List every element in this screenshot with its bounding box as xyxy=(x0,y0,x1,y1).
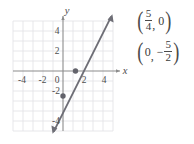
x-tick-label--2: -2 xyxy=(39,75,47,85)
x-tick-label-4: 4 xyxy=(102,75,107,85)
graph-canvas: -4 -2 0 2 4 4 2 -2 -4 x y xyxy=(0,0,134,144)
fraction-denominator: 2 xyxy=(164,51,172,64)
minus-sign: − xyxy=(154,46,164,58)
close-paren: ) xyxy=(173,39,179,65)
close-paren: ) xyxy=(165,8,171,34)
point-y-intercept xyxy=(60,93,65,98)
y-tick-label-4: 4 xyxy=(55,26,60,36)
x-axis-label: x xyxy=(122,65,128,76)
open-paren: ( xyxy=(137,39,143,65)
figure-page: -4 -2 0 2 4 4 2 -2 -4 x y (54,0) (0,−52) xyxy=(0,0,194,144)
y-tick-label--2: -2 xyxy=(52,86,60,96)
fraction-numerator: 5 xyxy=(164,39,172,51)
comma: , xyxy=(152,19,155,31)
open-paren: ( xyxy=(137,8,143,34)
coordinate-annotations: (54,0) (0,−52) xyxy=(136,8,194,70)
coordinate-plane-figure: -4 -2 0 2 4 4 2 -2 -4 x y xyxy=(0,0,134,144)
y-tick-label-2: 2 xyxy=(55,46,60,56)
x-axis-arrow xyxy=(116,69,120,72)
x-tick-label-2: 2 xyxy=(82,75,87,85)
comma: , xyxy=(151,50,154,62)
fraction-five-halves: 52 xyxy=(164,39,172,63)
x-tick-label--4: -4 xyxy=(18,75,26,85)
x-tick-label-0: 0 xyxy=(55,75,60,85)
axes xyxy=(13,16,120,131)
y-intercept-coordinate: (0,−52) xyxy=(136,39,181,65)
line-graph xyxy=(51,14,113,134)
y-axis-label: y xyxy=(64,5,70,16)
point-x-intercept xyxy=(73,68,78,73)
fraction-denominator: 4 xyxy=(145,20,153,33)
y-tick-label--4: -4 xyxy=(52,116,60,126)
second-value: 0 xyxy=(155,15,164,27)
fraction-five-fourths: 54 xyxy=(145,8,153,32)
y-axis-arrow xyxy=(61,16,64,20)
fraction-numerator: 5 xyxy=(145,8,153,20)
x-intercept-coordinate: (54,0) xyxy=(136,8,173,34)
